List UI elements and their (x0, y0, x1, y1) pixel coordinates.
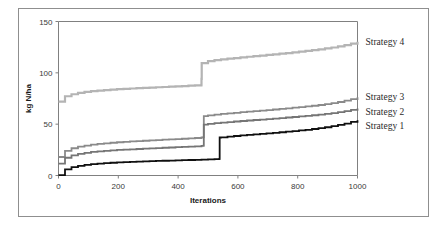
x-tick-label-400: 400 (171, 182, 185, 191)
series-label-strategy-4: Strategy 4 (366, 37, 405, 47)
x-axis-title: Iterations (190, 196, 227, 205)
y-tick-label-50: 50 (44, 120, 53, 129)
x-tick-label-0: 0 (56, 182, 61, 191)
y-tick-label-150: 150 (39, 18, 53, 27)
y-tick-label-0: 0 (48, 172, 53, 181)
chart-svg: 05010015002004006008001000Iterationskg N… (0, 0, 448, 229)
series-label-strategy-2: Strategy 2 (366, 107, 405, 117)
series-label-strategy-3: Strategy 3 (366, 92, 405, 102)
series-label-strategy-1: Strategy 1 (366, 121, 405, 131)
plot-area (59, 22, 358, 176)
y-axis-title: kg N/ha (24, 84, 33, 113)
x-tick-label-1000: 1000 (349, 182, 367, 191)
x-tick-label-200: 200 (112, 182, 126, 191)
x-tick-label-600: 600 (231, 182, 245, 191)
x-tick-label-800: 800 (291, 182, 305, 191)
chart-figure: 05010015002004006008001000Iterationskg N… (0, 0, 448, 229)
y-tick-label-100: 100 (39, 69, 53, 78)
